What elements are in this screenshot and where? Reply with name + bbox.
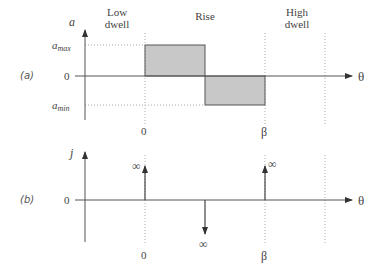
infinity-label-beta: ∞ — [268, 158, 277, 170]
tick-beta-b: β — [261, 250, 267, 262]
panel-b-label: (b) — [20, 195, 34, 205]
region-rise: Rise — [181, 10, 229, 22]
y-axis-label-a: a — [69, 16, 75, 28]
amin-block — [205, 76, 265, 105]
tick-beta-a: β — [261, 126, 267, 138]
tick-amin: amin — [52, 100, 70, 113]
tick-zero-b: 0 — [64, 195, 70, 206]
amax-block — [145, 45, 205, 76]
region-high-dwell: Highdwell — [273, 6, 321, 30]
tick-amax: amax — [52, 40, 71, 53]
region-low-dwell: Lowdwell — [93, 6, 141, 30]
infinity-label-mid: ∞ — [199, 238, 208, 250]
y-axis-label-j: j — [70, 147, 73, 159]
panel-a-plot — [75, 30, 352, 125]
tick-0-b: 0 — [141, 250, 147, 261]
infinity-label-0: ∞ — [132, 160, 141, 172]
panel-b-plot — [75, 152, 352, 245]
panel-a-label: (a) — [20, 71, 34, 81]
tick-zero-a: 0 — [64, 71, 70, 82]
x-axis-label-b: θ — [358, 194, 364, 207]
x-axis-label-a: θ — [358, 70, 364, 83]
tick-0-a: 0 — [141, 126, 147, 137]
